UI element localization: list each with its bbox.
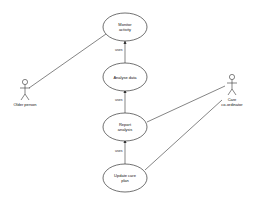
assoc-coord-update: [145, 100, 222, 170]
use-case-update-label: Update care plan: [105, 173, 145, 183]
actor-older-person-icon: [20, 79, 30, 100]
label-line: Analyse data: [105, 75, 145, 80]
actor-older-person-label: Older person: [3, 102, 47, 107]
uses-label: uses: [115, 48, 122, 52]
uses-label: uses: [115, 149, 122, 153]
label-line: analysis: [105, 127, 145, 132]
label-line: plan: [105, 178, 145, 183]
label-line: activity: [105, 27, 145, 32]
actor-care-coordinator-icon: [227, 74, 237, 95]
use-case-analyse-label: Analyse data: [105, 75, 145, 80]
assoc-older-monitor: [29, 34, 106, 88]
label-line: co-ordinator: [210, 102, 254, 107]
use-case-monitor-label: Monitor activity: [105, 22, 145, 32]
uses-label: uses: [115, 98, 122, 102]
use-case-report-label: Report analysis: [105, 122, 145, 132]
actor-care-coordinator-label: Care co-ordinator: [210, 97, 254, 107]
